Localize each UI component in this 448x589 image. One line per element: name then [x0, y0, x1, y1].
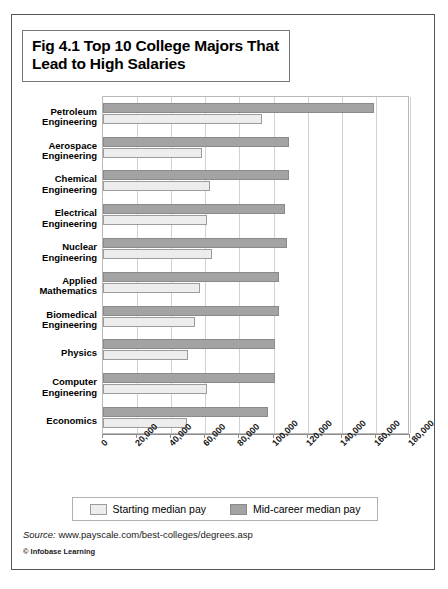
plot-area: [102, 96, 409, 434]
chart-legend: Starting median payMid-career median pay: [72, 497, 378, 521]
chart-plot-wrapper: PetroleumEngineeringAerospaceEngineering…: [12, 15, 436, 571]
bar-mid-career-median-pay: [103, 339, 275, 349]
bar-mid-career-median-pay: [103, 137, 289, 147]
bar-starting-median-pay: [103, 283, 200, 293]
bar-mid-career-median-pay: [103, 306, 279, 316]
category-label-line: Engineering: [0, 219, 97, 230]
bar-group: [103, 334, 408, 368]
bar-starting-median-pay: [103, 317, 195, 327]
bar-group: [103, 131, 408, 165]
legend-swatch: [230, 504, 247, 515]
category-label-line: Physics: [0, 348, 97, 359]
category-label-line: Engineering: [0, 388, 97, 399]
bar-starting-median-pay: [103, 215, 207, 225]
bar-starting-median-pay: [103, 384, 207, 394]
legend-label: Mid-career median pay: [253, 503, 360, 515]
bar-starting-median-pay: [103, 114, 262, 124]
category-label: AppliedMathematics: [0, 276, 97, 297]
category-label: ElectricalEngineering: [0, 208, 97, 229]
bar-mid-career-median-pay: [103, 204, 285, 214]
category-label-line: Engineering: [0, 185, 97, 196]
bar-starting-median-pay: [103, 350, 188, 360]
bar-mid-career-median-pay: [103, 103, 374, 113]
category-label: Physics: [0, 348, 97, 359]
category-label-line: Economics: [0, 416, 97, 427]
x-axis-tick-label: 0: [99, 437, 110, 448]
bar-group: [103, 97, 408, 131]
bar-group: [103, 198, 408, 232]
bar-starting-median-pay: [103, 249, 212, 259]
bar-mid-career-median-pay: [103, 170, 289, 180]
bar-group: [103, 300, 408, 334]
source-label: Source:: [23, 529, 56, 540]
category-label: BiomedicalEngineering: [0, 310, 97, 331]
category-label-line: Engineering: [0, 253, 97, 264]
bar-mid-career-median-pay: [103, 407, 268, 417]
category-label-line: Engineering: [0, 117, 97, 128]
legend-item: Starting median pay: [90, 503, 206, 515]
category-label: ChemicalEngineering: [0, 174, 97, 195]
bar-group: [103, 232, 408, 266]
source-note: Source: www.payscale.com/best-colleges/d…: [23, 529, 253, 540]
bar-starting-median-pay: [103, 418, 187, 428]
legend-swatch: [90, 504, 107, 515]
category-label: Economics: [0, 416, 97, 427]
figure-frame: Fig 4.1 Top 10 College Majors That Lead …: [11, 14, 435, 570]
category-label-line: Nuclear: [0, 242, 97, 253]
source-url: www.payscale.com/best-colleges/degrees.a…: [58, 529, 252, 540]
bar-group: [103, 367, 408, 401]
category-label-line: Mathematics: [0, 286, 97, 297]
bar-mid-career-median-pay: [103, 238, 287, 248]
category-label: AerospaceEngineering: [0, 141, 97, 162]
copyright-note: © Infobase Learning: [23, 547, 95, 556]
gridline: [410, 97, 411, 433]
category-label-line: Engineering: [0, 320, 97, 331]
category-label-line: Engineering: [0, 151, 97, 162]
bar-mid-career-median-pay: [103, 272, 279, 282]
bar-group: [103, 165, 408, 199]
category-label: NuclearEngineering: [0, 242, 97, 263]
bar-group: [103, 266, 408, 300]
category-label: PetroleumEngineering: [0, 107, 97, 128]
legend-label: Starting median pay: [113, 503, 206, 515]
category-label: ComputerEngineering: [0, 377, 97, 398]
bar-starting-median-pay: [103, 148, 202, 158]
bar-starting-median-pay: [103, 181, 210, 191]
legend-item: Mid-career median pay: [230, 503, 360, 515]
bar-mid-career-median-pay: [103, 373, 275, 383]
